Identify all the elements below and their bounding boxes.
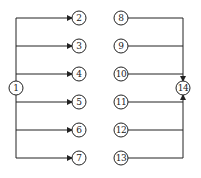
node-13: 13 xyxy=(114,151,128,165)
node-label: 3 xyxy=(76,41,82,51)
node-7: 7 xyxy=(72,151,86,165)
nodes-layer: 1234567891011121314 xyxy=(9,11,190,165)
node-3: 3 xyxy=(72,39,86,53)
node-1: 1 xyxy=(9,81,23,95)
node-9: 9 xyxy=(114,39,128,53)
node-11: 11 xyxy=(114,95,128,109)
node-5: 5 xyxy=(72,95,86,109)
node-label: 6 xyxy=(76,125,82,135)
network-diagram: 1234567891011121314 xyxy=(0,0,201,178)
node-4: 4 xyxy=(72,67,86,81)
node-label: 5 xyxy=(76,97,82,107)
node-10: 10 xyxy=(114,67,128,81)
node-12: 12 xyxy=(114,123,128,137)
node-label: 10 xyxy=(116,69,127,79)
node-label: 8 xyxy=(118,13,124,23)
node-label: 11 xyxy=(116,97,126,107)
node-label: 7 xyxy=(76,153,82,163)
node-label: 1 xyxy=(13,83,19,93)
edges-layer xyxy=(16,18,183,158)
node-label: 9 xyxy=(118,41,124,51)
node-14: 14 xyxy=(176,81,190,95)
node-label: 13 xyxy=(116,153,127,163)
node-label: 14 xyxy=(178,83,189,93)
node-2: 2 xyxy=(72,11,86,25)
node-6: 6 xyxy=(72,123,86,137)
node-8: 8 xyxy=(114,11,128,25)
node-label: 2 xyxy=(76,13,82,23)
node-label: 4 xyxy=(76,69,82,79)
node-label: 12 xyxy=(116,125,126,135)
